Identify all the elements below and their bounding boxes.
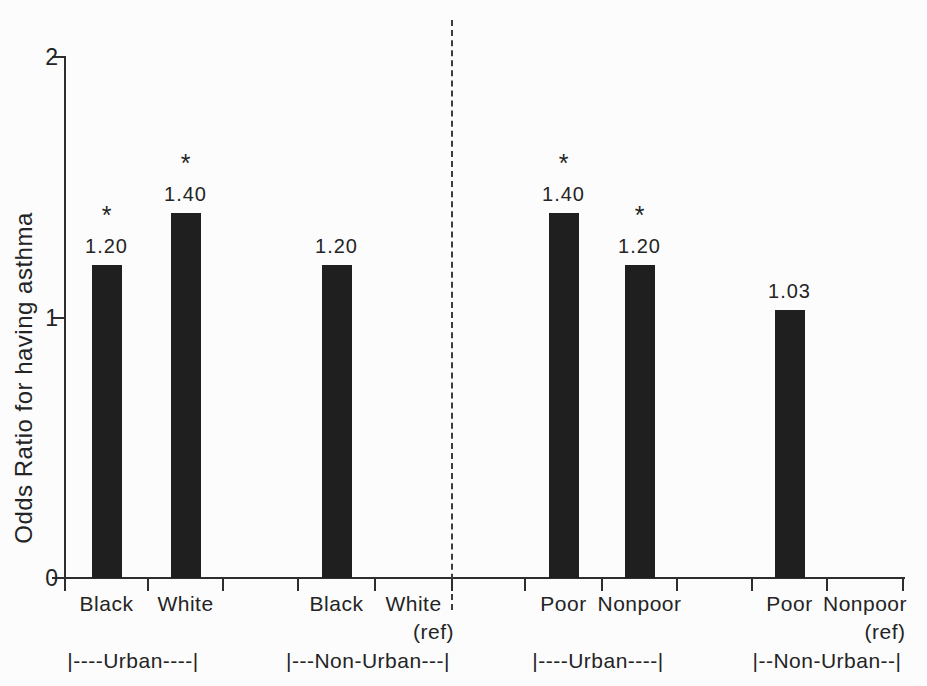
x-category-label: Nonpoor <box>580 592 700 616</box>
y-axis-title: Odds Ratio for having asthma <box>9 128 39 628</box>
odds-ratio-bar-chart: Odds Ratio for having asthma 210 1.20*Bl… <box>0 0 927 686</box>
significance-asterisk: * <box>549 151 579 176</box>
bar-black <box>92 265 122 578</box>
y-tick-label: 2 <box>14 44 58 70</box>
x-category-label: Nonpoor <box>805 592 925 616</box>
bar-value-label: 1.40 <box>519 183 609 205</box>
significance-asterisk: * <box>171 151 201 176</box>
significance-asterisk: * <box>92 203 122 228</box>
group-span-label: |----Urban----| <box>23 649 243 673</box>
x-category-label: White <box>126 592 246 616</box>
group-span-label: |--Non-Urban--| <box>717 649 927 673</box>
y-tick-label: 0 <box>14 565 58 591</box>
x-tick-mark <box>374 579 376 591</box>
bar-value-label: 1.20 <box>595 235 685 257</box>
bar-poor <box>549 213 579 578</box>
x-category-ref-label: (ref) <box>825 620 927 644</box>
x-category-ref-label: (ref) <box>374 620 494 644</box>
x-tick-mark <box>297 579 299 591</box>
x-category-label: White <box>354 592 474 616</box>
x-tick-mark <box>601 579 603 591</box>
bar-black <box>322 265 352 578</box>
bar-nonpoor <box>625 265 655 578</box>
bar-value-label: 1.40 <box>141 183 231 205</box>
bar-value-label: 1.20 <box>292 235 382 257</box>
x-tick-mark <box>676 579 678 591</box>
group-span-label: |----Urban----| <box>488 649 708 673</box>
x-tick-mark <box>826 579 828 591</box>
x-tick-mark <box>451 579 453 591</box>
y-tick-label: 1 <box>14 305 58 331</box>
x-tick-mark <box>64 579 66 591</box>
x-tick-mark <box>902 579 904 591</box>
bar-poor <box>775 310 805 578</box>
bar-white <box>171 213 201 578</box>
bar-value-label: 1.03 <box>745 280 835 302</box>
x-tick-mark <box>524 579 526 591</box>
x-tick-mark <box>147 579 149 591</box>
bar-value-label: 1.20 <box>62 235 152 257</box>
significance-asterisk: * <box>625 203 655 228</box>
x-tick-mark <box>751 579 753 591</box>
group-span-label: |---Non-Urban---| <box>258 649 478 673</box>
x-tick-mark <box>222 579 224 591</box>
panel-divider-dashed-line <box>451 20 453 610</box>
